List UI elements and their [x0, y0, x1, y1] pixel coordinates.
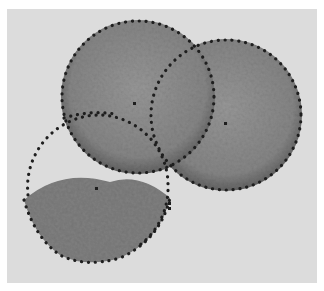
- micrograph-svg: [0, 0, 324, 291]
- micrograph-image: [0, 0, 324, 291]
